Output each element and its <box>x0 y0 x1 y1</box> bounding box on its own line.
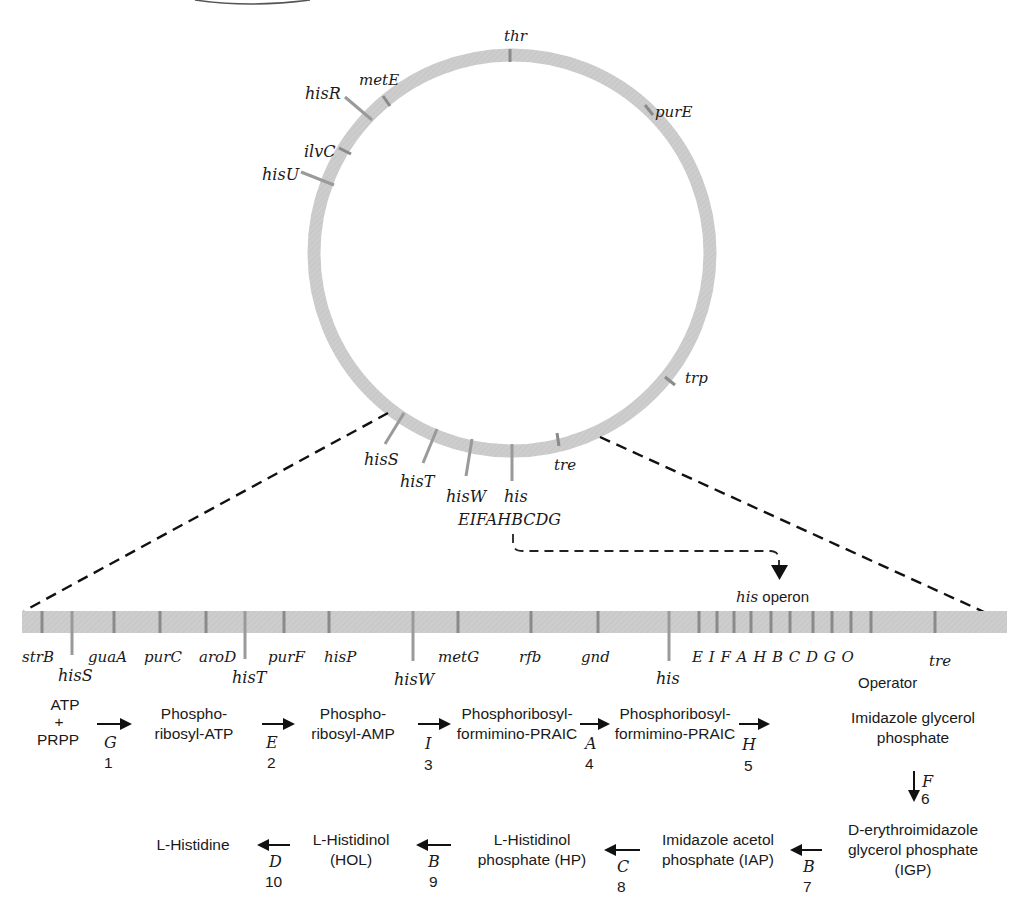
svg-text:6: 6 <box>921 790 930 807</box>
gene-label-purE: purE <box>655 103 692 121</box>
svg-text:4: 4 <box>585 755 594 772</box>
svg-text:ribosyl-AMP: ribosyl-AMP <box>311 725 395 742</box>
compound-phosphoribosyl-atp: Phospho- ribosyl-ATP <box>155 705 234 742</box>
operator-label: Operator <box>858 674 917 691</box>
linear-label-hisT: hisT <box>232 668 268 687</box>
svg-text:formimino-PRAIC: formimino-PRAIC <box>457 725 578 742</box>
zoom-line-left <box>24 413 388 611</box>
circular-chromosome-map: thr purE metE hisR ilvC hisU trp hisS hi… <box>262 27 710 529</box>
svg-text:Phospho-: Phospho- <box>320 705 386 722</box>
linear-label-hisS: hisS <box>58 666 93 685</box>
step-arrow-2: E 2 <box>262 718 295 771</box>
svg-text:7: 7 <box>803 878 812 895</box>
svg-text:Imidazole glycerol: Imidazole glycerol <box>851 709 975 726</box>
step-arrow-3: I 3 <box>418 718 451 773</box>
gene-label-hisS: hisS <box>364 450 399 469</box>
linear-label-guaA: guaA <box>88 648 127 666</box>
step-arrow-4: A 4 <box>580 718 610 772</box>
svg-text:1: 1 <box>104 754 113 771</box>
svg-text:glycerol phosphate: glycerol phosphate <box>848 841 978 858</box>
gene-label-hisR: hisR <box>305 84 341 103</box>
operon-callout-path <box>513 534 779 565</box>
operon-callout-arrowhead <box>771 565 788 580</box>
compound-imidazole-glycerol-phosphate: Imidazole glycerol phosphate <box>851 709 975 746</box>
svg-text:phosphate (IAP): phosphate (IAP) <box>662 851 774 868</box>
svg-text:E: E <box>265 733 278 752</box>
svg-text:Imidazole acetol: Imidazole acetol <box>662 831 774 848</box>
linear-label-tre: tre <box>929 652 951 670</box>
histidine-pathway: ATP + PRPP G 1 E 2 I 3 A 4 H 5 <box>37 696 978 895</box>
svg-text:ribosyl-ATP: ribosyl-ATP <box>155 725 234 742</box>
linear-label-aroD: aroD <box>199 648 236 666</box>
svg-text:10: 10 <box>265 873 283 890</box>
svg-text:formimino-PRAIC: formimino-PRAIC <box>615 725 736 742</box>
substrate-plus: + <box>54 713 63 730</box>
linear-label-purF: purF <box>268 648 305 666</box>
svg-text:L-Histidinol: L-Histidinol <box>313 831 390 848</box>
svg-text:(IGP): (IGP) <box>894 861 931 878</box>
his-genes-label: EIFAHBCDG <box>457 510 561 529</box>
svg-text:phosphate (HP): phosphate (HP) <box>478 851 587 868</box>
step-arrow-7: B 7 <box>790 844 822 895</box>
gene-label-hisW: hisW <box>446 487 488 506</box>
linear-genetic-map: strB guaA purC aroD purF hisP metG rfb g… <box>22 611 1007 691</box>
svg-text:phosphate: phosphate <box>877 729 949 746</box>
svg-text:L-Histidine: L-Histidine <box>156 836 229 853</box>
svg-text:L-Histidinol: L-Histidinol <box>494 831 571 848</box>
gene-label-ilvC: ilvC <box>304 142 336 161</box>
linear-chromosome-bar <box>22 611 1007 633</box>
compound-d-erythroimidazole-glycerol-phosphate: D-erythroimidazole glycerol phosphate (I… <box>848 821 978 878</box>
svg-text:Phospho-: Phospho- <box>161 705 227 722</box>
linear-label-metG: metG <box>438 648 479 666</box>
compound-l-histidine: L-Histidine <box>156 836 229 853</box>
linear-label-purC: purC <box>144 648 182 666</box>
svg-text:B: B <box>427 852 440 871</box>
step-arrow-6: F 6 <box>908 771 934 807</box>
svg-text:Phosphoribosyl-: Phosphoribosyl- <box>619 705 730 722</box>
compound-imidazole-acetol-phosphate: Imidazole acetol phosphate (IAP) <box>662 831 774 868</box>
svg-text:D: D <box>268 852 282 871</box>
step-arrow-10: D 10 <box>257 839 290 890</box>
substrate-atp: ATP <box>51 696 80 713</box>
svg-text:(HOL): (HOL) <box>330 851 372 868</box>
his-operon-label: his operon <box>736 588 809 606</box>
gene-label-metE: metE <box>359 71 399 89</box>
compound-phosphoribosyl-formimino-praic-1: Phosphoribosyl- formimino-PRAIC <box>457 705 578 742</box>
linear-label-rfb: rfb <box>519 648 541 666</box>
svg-text:C: C <box>617 857 629 876</box>
svg-text:B: B <box>802 857 815 876</box>
svg-text:H: H <box>741 735 757 754</box>
svg-text:2: 2 <box>267 754 276 771</box>
svg-text:Phosphoribosyl-: Phosphoribosyl- <box>461 705 572 722</box>
partial-arc-top <box>195 0 310 4</box>
gene-label-his: his <box>504 487 528 506</box>
step-arrow-1: G 1 <box>97 718 132 771</box>
operon-gene-letters: E I F A H B C D G O <box>691 648 854 666</box>
compound-l-histidinol: L-Histidinol (HOL) <box>313 831 390 868</box>
svg-text:8: 8 <box>617 878 626 895</box>
linear-label-his: his <box>656 669 680 688</box>
step-arrow-8: C 8 <box>604 844 640 895</box>
svg-text:I: I <box>424 734 432 753</box>
compound-phosphoribosyl-formimino-praic-2: Phosphoribosyl- formimino-PRAIC <box>615 705 736 742</box>
gene-label-hisT: hisT <box>400 472 436 491</box>
linear-label-strB: strB <box>22 648 54 666</box>
substrate-prpp: PRPP <box>37 731 79 748</box>
compound-phosphoribosyl-amp: Phospho- ribosyl-AMP <box>311 705 395 742</box>
his-operon-diagram: thr purE metE hisR ilvC hisU trp hisS hi… <box>0 0 1035 918</box>
svg-text:5: 5 <box>744 757 753 774</box>
svg-text:9: 9 <box>429 873 438 890</box>
svg-text:F: F <box>921 772 934 791</box>
svg-text:A: A <box>583 734 597 753</box>
tick-tre-circle <box>557 433 559 446</box>
linear-label-hisW: hisW <box>394 670 436 689</box>
step-arrow-9: B 9 <box>416 839 451 890</box>
compound-l-histidinol-phosphate: L-Histidinol phosphate (HP) <box>478 831 587 868</box>
step-arrow-5: H 5 <box>739 718 770 774</box>
gene-label-thr: thr <box>504 27 528 45</box>
svg-text:D-erythroimidazole: D-erythroimidazole <box>848 821 978 838</box>
linear-label-gnd: gnd <box>581 648 610 666</box>
linear-label-hisP: hisP <box>324 648 357 666</box>
gene-label-tre: tre <box>554 456 576 474</box>
svg-text:G: G <box>104 733 117 752</box>
